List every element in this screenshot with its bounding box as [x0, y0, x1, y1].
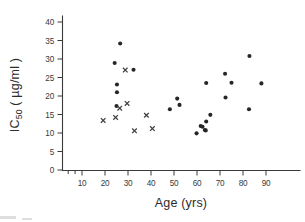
data-point-circle [204, 119, 208, 123]
data-point-circle [247, 54, 251, 58]
y-axis-title: IC50 ( µg/ml ) [8, 58, 24, 132]
axes-frame [63, 16, 301, 171]
x-tick-label: 50 [170, 179, 179, 188]
y-tick-label: 30 [45, 55, 54, 64]
data-point-circle [259, 81, 263, 85]
data-point-circle [204, 128, 208, 132]
data-point-circle [131, 68, 135, 72]
x-tick-label: 20 [101, 179, 110, 188]
data-point-circle [223, 72, 227, 76]
y-tick-label: 10 [45, 129, 54, 138]
x-tick-label: 90 [262, 179, 271, 188]
y-tick-label: 5 [50, 148, 55, 157]
y-tick-label: 35 [45, 37, 54, 46]
data-point-circle [204, 81, 208, 85]
data-point-circle [168, 107, 172, 111]
data-point-circle [194, 131, 198, 135]
y-axis-title-group: IC50 ( µg/ml ) [8, 58, 24, 132]
data-point-cross [113, 115, 118, 120]
x-axis-title: Age (yrs) [155, 196, 208, 210]
data-point-cross [150, 126, 155, 131]
data-point-circle [118, 41, 122, 45]
data-point-cross [132, 128, 137, 133]
data-point-circle [229, 81, 233, 85]
y-tick-label: 40 [45, 18, 54, 27]
scatter-plot-figure: 0510152025303540 102030405060708090 Age … [0, 0, 305, 222]
x-tick-label: 30 [124, 179, 133, 188]
y-tick-label: 25 [45, 74, 54, 83]
data-point-cross [101, 118, 106, 123]
series-filled-circle [113, 41, 264, 135]
x-tick-label: 80 [239, 179, 248, 188]
data-point-circle [115, 90, 119, 94]
series-cross [101, 68, 155, 133]
y-tick-label: 0 [50, 166, 55, 175]
scan-smudge [0, 216, 16, 219]
data-point-cross [125, 101, 130, 106]
scan-smudge [22, 218, 32, 220]
data-point-circle [115, 82, 119, 86]
x-tick-label: 40 [147, 179, 156, 188]
plot-canvas: 0510152025303540 102030405060708090 Age … [0, 0, 305, 222]
data-point-cross [144, 113, 149, 118]
x-tick-label: 70 [216, 179, 225, 188]
x-tick-label: 10 [78, 179, 87, 188]
data-point-circle [177, 103, 181, 107]
x-axis-ticks: 102030405060708090 [68, 171, 271, 189]
data-point-circle [113, 61, 117, 65]
data-point-circle [208, 113, 212, 117]
y-axis-ticks: 0510152025303540 [45, 18, 62, 175]
data-point-circle [247, 107, 251, 111]
y-tick-label: 20 [45, 92, 54, 101]
data-point-cross [117, 106, 122, 111]
y-tick-label: 15 [45, 111, 54, 120]
x-tick-label: 60 [193, 179, 202, 188]
data-point-circle [200, 125, 204, 129]
data-point-circle [175, 97, 179, 101]
data-point-cross [123, 68, 128, 73]
data-point-circle [223, 95, 227, 99]
